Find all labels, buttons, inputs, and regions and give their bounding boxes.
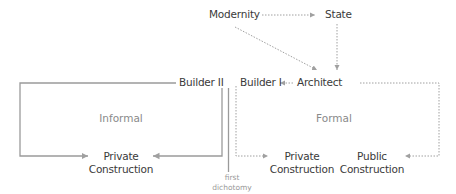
node-public-construction: Public Construction [340, 150, 404, 175]
edge-builder2-private-left [20, 83, 176, 156]
private-construction-formal-line2: Construction [270, 163, 334, 176]
node-builder-1: Builder I [240, 76, 282, 88]
edge-architect-public [360, 83, 439, 156]
node-private-construction-formal: Private Construction [270, 150, 334, 175]
first-dichotomy-line1: first [212, 173, 252, 183]
edge-modernity-architect [235, 27, 317, 70]
node-modernity: Modernity [209, 8, 260, 20]
public-construction-line2: Construction [340, 163, 404, 176]
node-state: State [325, 8, 352, 20]
private-construction-informal-line1: Private [89, 150, 153, 163]
region-informal: Informal [99, 112, 143, 124]
region-formal: Formal [316, 112, 352, 124]
node-private-construction-informal: Private Construction [89, 150, 153, 175]
private-construction-formal-line1: Private [270, 150, 334, 163]
public-construction-line1: Public [340, 150, 404, 163]
node-builder-2: Builder II [179, 76, 224, 88]
edge-builder1-private-formal [236, 86, 268, 156]
edge-builder2-private-right [153, 88, 222, 156]
node-architect: Architect [297, 76, 342, 88]
private-construction-informal-line2: Construction [89, 163, 153, 176]
first-dichotomy-line2: dichotomy [212, 183, 252, 193]
annotation-first-dichotomy: first dichotomy [212, 173, 252, 193]
